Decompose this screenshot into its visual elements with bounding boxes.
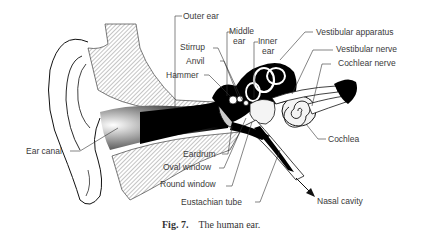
label-anvil: Anvil — [186, 57, 204, 66]
label-outer-ear: Outer ear — [183, 12, 219, 21]
label-oval-window: Oval window — [163, 163, 211, 172]
label-inner-ear-line1: Inner — [258, 37, 277, 46]
anvil-bone — [237, 96, 243, 102]
ear-diagram: Outer ear Middle ear Inner ear Vestibula… — [0, 0, 424, 237]
pinna-inner-fold — [66, 56, 82, 150]
label-round-window: Round window — [160, 180, 216, 189]
caption-number: Fig. 7. — [162, 219, 188, 230]
label-eardrum: Eardrum — [183, 150, 216, 159]
skull-bone-upper — [88, 24, 215, 108]
pinna-helix — [78, 64, 90, 128]
figure-caption: Fig. 7.The human ear. — [162, 219, 260, 230]
label-hammer: Hammer — [166, 71, 199, 80]
stirrup-bone — [244, 101, 249, 106]
label-middle-ear-line2: ear — [233, 37, 245, 46]
label-inner-ear-line2: ear — [262, 47, 274, 56]
label-stirrup: Stirrup — [180, 43, 205, 52]
label-vestibular-nerve: Vestibular nerve — [336, 45, 397, 54]
label-vestibular-apparatus: Vestibular apparatus — [316, 28, 394, 37]
label-nasal-cavity: Nasal cavity — [317, 197, 363, 206]
label-middle-ear-line1: Middle — [229, 27, 254, 36]
pinna-lobe-inner — [86, 170, 90, 196]
label-cochlear-nerve: Cochlear nerve — [338, 59, 396, 68]
label-ear-canal: Ear canal — [26, 147, 62, 156]
label-eustachian-tube: Eustachian tube — [181, 198, 242, 207]
hammer-bone — [229, 96, 237, 104]
vestibule — [250, 99, 275, 124]
caption-text: The human ear. — [198, 219, 260, 230]
label-cochlea: Cochlea — [328, 135, 359, 144]
